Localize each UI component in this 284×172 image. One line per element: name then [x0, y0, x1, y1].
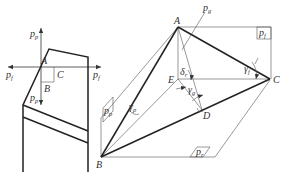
left-figure-tool-view: pp pp pf pf A B C: [5, 28, 101, 172]
label-gamma-p-sub: p: [132, 106, 137, 113]
abc-rectangle: [41, 67, 54, 82]
label-gamma-f-sub: f: [248, 68, 251, 75]
label-pf-box-sub: f: [264, 32, 267, 39]
label-point-C-left: C: [57, 69, 64, 80]
label-pf-right-sub: f: [98, 74, 101, 81]
gamma-f-arc-tick: [255, 58, 258, 64]
label-pp-top-sub: p: [34, 33, 39, 40]
svg-text:pp: pp: [103, 105, 113, 117]
right-figure-angle-geometry: A B C D E pg pf pp pr γf γp γg δr: [96, 2, 280, 170]
gamma-g-arc-left: [176, 87, 186, 89]
svg-text:pg: pg: [202, 2, 212, 14]
label-pp-bottom-sub: p: [34, 97, 39, 104]
label-point-B-left: B: [44, 83, 50, 94]
svg-text:γf: γf: [244, 63, 251, 75]
label-pp-box-sub: p: [108, 110, 113, 117]
svg-text:pf: pf: [258, 27, 267, 39]
label-point-A: A: [173, 15, 181, 26]
tool-angle-diagram: pp pp pf pf A B C: [0, 0, 284, 172]
svg-text:pr: pr: [195, 146, 204, 158]
label-gamma-g-sub: g: [192, 89, 196, 96]
svg-text:δr: δr: [180, 66, 188, 78]
label-point-B: B: [96, 159, 102, 170]
label-pg-sub: g: [208, 7, 212, 14]
svg-text:pp: pp: [29, 92, 39, 104]
tool-band-line-2: [23, 117, 88, 143]
tool-band-line-1: [23, 105, 88, 131]
label-point-C: C: [273, 74, 280, 85]
svg-text:pf: pf: [5, 69, 14, 81]
label-point-A-left: A: [40, 55, 48, 66]
svg-text:pf: pf: [92, 69, 101, 81]
svg-text:pp: pp: [29, 28, 39, 40]
label-point-E: E: [167, 74, 174, 85]
line-BC: [101, 79, 270, 157]
label-point-D: D: [202, 110, 211, 121]
line-AB: [101, 27, 178, 157]
label-pf-left-sub: f: [11, 74, 14, 81]
label-delta-r-sub: r: [185, 71, 188, 78]
tool-outline: [23, 49, 88, 172]
